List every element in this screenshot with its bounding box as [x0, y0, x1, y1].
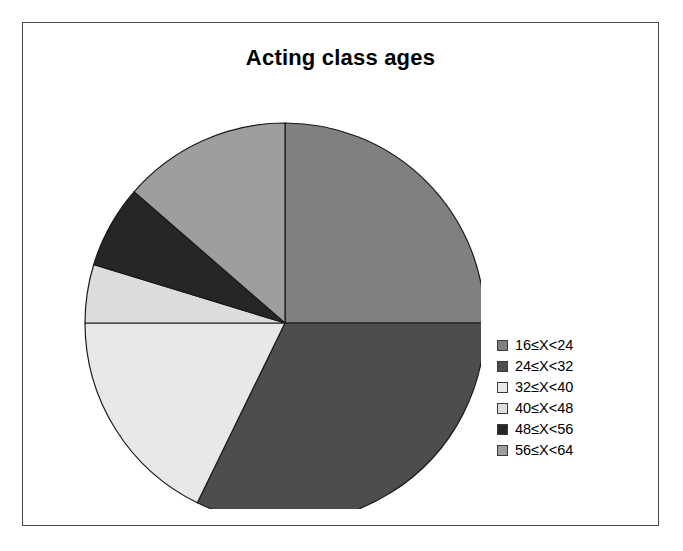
legend-swatch-16-24: [497, 340, 508, 351]
legend-item-label: 32≤X<40: [515, 380, 573, 395]
chart-frame: Acting class ages 16≤X<2424≤X<3232≤X<404…: [22, 22, 659, 526]
legend-item-3[interactable]: 32≤X<40: [497, 377, 647, 397]
legend-swatch-32-40: [497, 382, 508, 393]
legend-item-label: 48≤X<56: [515, 422, 573, 437]
legend-item-6[interactable]: 56≤X<64: [497, 440, 647, 460]
legend-swatch-24-32: [497, 361, 508, 372]
legend-swatch-48-56: [497, 424, 508, 435]
legend: 16≤X<2424≤X<3232≤X<4040≤X<4848≤X<5656≤X<…: [497, 335, 647, 461]
legend-item-label: 56≤X<64: [515, 443, 573, 458]
legend-item-1[interactable]: 16≤X<24: [497, 335, 647, 355]
legend-swatch-56-64: [497, 445, 508, 456]
legend-item-label: 16≤X<24: [515, 338, 573, 353]
page-title: Acting class ages: [23, 45, 658, 71]
legend-item-4[interactable]: 40≤X<48: [497, 398, 647, 418]
pie-slice-1[interactable]: [285, 123, 481, 323]
pie-slice-group: [85, 123, 481, 509]
legend-item-label: 24≤X<32: [515, 359, 573, 374]
pie-chart-svg: [41, 79, 481, 509]
legend-item-5[interactable]: 48≤X<56: [497, 419, 647, 439]
legend-item-label: 40≤X<48: [515, 401, 573, 416]
legend-swatch-40-48: [497, 403, 508, 414]
pie-chart-plot-area: [41, 79, 481, 509]
legend-item-2[interactable]: 24≤X<32: [497, 356, 647, 376]
